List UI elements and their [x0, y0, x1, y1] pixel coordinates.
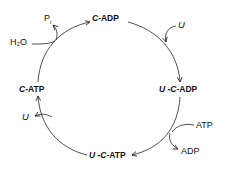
arc-catp-to-cadp: [38, 22, 90, 82]
arrow-adp-out: [169, 133, 178, 149]
state-c-atp: C-ATP: [19, 84, 44, 94]
arrow-u-out: [35, 114, 52, 117]
arc-ucatp-to-catp: [38, 96, 87, 155]
reagent-atp-in: ATP: [196, 120, 213, 130]
state-c-adp-suffix: -ADP: [98, 13, 119, 23]
state-u-c-atp-suffix: -ATP: [106, 150, 125, 160]
reagent-u-out: U: [22, 112, 29, 122]
reagent-pi-out: Pi: [44, 13, 51, 27]
state-u-c-adp-prefix: U -C: [159, 84, 176, 94]
state-u-c-adp: U -C-ADP: [159, 84, 197, 94]
state-u-c-atp: U -C-ATP: [89, 150, 126, 160]
state-u-c-atp-prefix: U -C: [89, 150, 106, 160]
state-c-adp: C-ADP: [92, 13, 119, 23]
state-c-atp-suffix: -ATP: [25, 84, 44, 94]
arrow-u-in: [165, 26, 176, 42]
reagent-u-in: U: [178, 20, 185, 30]
reagent-pi-subscript: i: [50, 19, 51, 25]
arrow-atp-in: [172, 124, 194, 132]
arc-ucadp-to-ucatp: [132, 97, 180, 155]
arc-cadp-to-ucadp: [128, 22, 180, 82]
reagent-adp-out: ADP: [181, 146, 200, 156]
state-u-c-adp-suffix: -ADP: [176, 84, 197, 94]
reagent-h2o-in: H₂O: [10, 37, 27, 47]
arrow-pi-out: [53, 25, 57, 40]
arrow-h2o-in: [32, 41, 55, 44]
